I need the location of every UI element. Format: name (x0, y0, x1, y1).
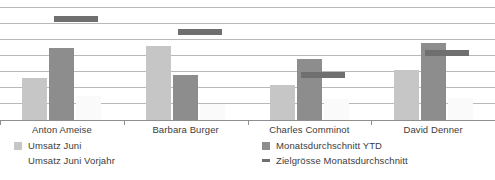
bar (76, 96, 101, 120)
target-marker (301, 72, 345, 78)
bar-group (371, 8, 495, 120)
plot-area (0, 8, 495, 120)
legend-item[interactable]: Umsatz Juni Vorjahr (14, 153, 115, 168)
bar (146, 46, 171, 120)
bar-group-bars (124, 8, 248, 120)
target-marker (54, 16, 98, 22)
legend-column-right: Monatsdurchschnitt YTDZielgrösse Monatsd… (262, 138, 408, 168)
bar (297, 59, 322, 120)
bar-group-bars (248, 8, 372, 120)
bar (324, 99, 349, 120)
bar-group-bars (371, 8, 495, 120)
bar-group-bars (0, 8, 124, 120)
category-label-4: David Denner (371, 123, 495, 137)
bar-chart: Anton AmeiseBarbara BurgerCharles Commin… (0, 0, 495, 180)
bar-group (124, 8, 248, 120)
bar (173, 75, 198, 120)
bar (270, 85, 295, 120)
category-label-1: Anton Ameise (0, 123, 124, 137)
legend-label: Monatsdurchschnitt YTD (276, 140, 382, 152)
legend-label: Zielgrösse Monatsdurchschnitt (276, 155, 408, 167)
bar-group (0, 8, 124, 120)
bar (22, 78, 47, 120)
target-marker (425, 50, 469, 56)
legend-column-left: Umsatz JuniUmsatz Juni Vorjahr (14, 138, 115, 168)
bar-group (248, 8, 372, 120)
legend-item[interactable]: Zielgrösse Monatsdurchschnitt (262, 153, 408, 168)
legend-swatch-icon (262, 159, 270, 162)
bar (49, 48, 74, 120)
legend-label: Umsatz Juni Vorjahr (28, 155, 115, 167)
legend-label: Umsatz Juni (28, 140, 81, 152)
bar-groups (0, 8, 495, 120)
category-label-2: Barbara Burger (124, 123, 248, 137)
legend-item[interactable]: Umsatz Juni (14, 138, 115, 153)
category-label-3: Charles Comminot (248, 123, 372, 137)
legend-item[interactable]: Monatsdurchschnitt YTD (262, 138, 408, 153)
x-axis-category-labels: Anton AmeiseBarbara BurgerCharles Commin… (0, 123, 495, 137)
bar (200, 104, 225, 120)
target-marker (178, 29, 222, 35)
legend-swatch-icon (14, 142, 22, 150)
chart-legend: Umsatz JuniUmsatz Juni Vorjahr Monatsdur… (0, 138, 495, 172)
bar (448, 98, 473, 120)
legend-swatch-icon (14, 157, 22, 165)
legend-swatch-icon (262, 142, 270, 150)
bar (394, 70, 419, 120)
